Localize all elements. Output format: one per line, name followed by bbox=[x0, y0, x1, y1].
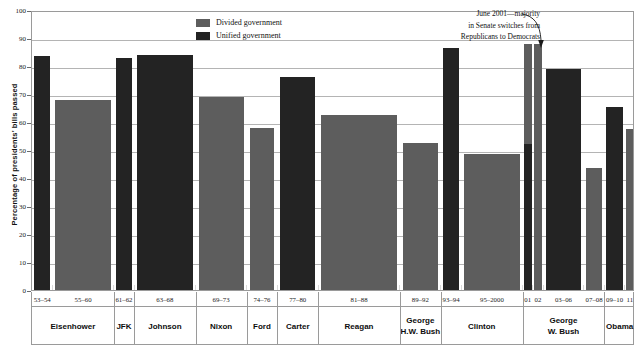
label-separator bbox=[196, 292, 197, 307]
legend-item-unified: Unified government bbox=[196, 30, 282, 41]
year-label-07-08: 07–08 bbox=[584, 292, 604, 307]
y-axis-tick-label: 100 bbox=[0, 7, 26, 15]
bar-69-73[interactable] bbox=[199, 97, 244, 290]
year-label-63-68: 63–68 bbox=[134, 292, 195, 307]
year-label-53-54: 53–54 bbox=[32, 292, 52, 307]
x-axis-tick bbox=[624, 285, 625, 290]
x-axis-tick bbox=[543, 285, 544, 290]
bar-01-divided-segment bbox=[524, 44, 532, 145]
legend-swatch-divided bbox=[196, 19, 210, 27]
legend-label-divided: Divided government bbox=[216, 18, 282, 27]
bar-09-10[interactable] bbox=[606, 107, 622, 290]
year-label-69-73: 69–73 bbox=[196, 292, 247, 307]
x-axis-tick bbox=[277, 285, 278, 290]
year-label-77-80: 77–80 bbox=[277, 292, 318, 307]
year-label-95-2000: 95–2000 bbox=[461, 292, 522, 307]
bar-02[interactable] bbox=[534, 44, 542, 290]
president-label-jfk: JFK bbox=[114, 307, 134, 345]
x-axis-tick bbox=[461, 285, 462, 290]
bar-11[interactable] bbox=[626, 129, 634, 290]
label-separator bbox=[114, 307, 115, 345]
label-separator bbox=[523, 307, 524, 345]
president-label-reagan: Reagan bbox=[318, 307, 400, 345]
x-axis-tick bbox=[532, 285, 533, 290]
label-separator bbox=[247, 292, 248, 307]
year-label-81-88: 81–88 bbox=[318, 292, 400, 307]
year-label-row: 53–5455–6061–6263–6869–7374–7677–8081–88… bbox=[31, 292, 634, 307]
bar-89-92[interactable] bbox=[403, 143, 438, 290]
label-separator bbox=[604, 307, 605, 345]
president-label-clinton: Clinton bbox=[441, 307, 523, 345]
legend-swatch-unified bbox=[196, 32, 210, 40]
y-axis-tick-label: 90 bbox=[0, 35, 26, 43]
y-axis-tick-label: 40 bbox=[0, 175, 26, 183]
x-axis-tick bbox=[318, 285, 319, 290]
president-label-obama: Obama bbox=[604, 307, 635, 345]
bar-61-62[interactable] bbox=[116, 58, 132, 290]
year-label-55-60: 55–60 bbox=[52, 292, 113, 307]
y-axis-tick-label: 50 bbox=[0, 147, 26, 155]
label-separator bbox=[441, 292, 442, 307]
president-label-johnson: Johnson bbox=[134, 307, 195, 345]
annotation-line-1: June 2001—majority bbox=[400, 8, 540, 20]
y-axis-tick-label: 10 bbox=[0, 259, 26, 267]
bar-74-76[interactable] bbox=[250, 128, 275, 290]
label-separator bbox=[134, 307, 135, 345]
legend-label-unified: Unified government bbox=[216, 31, 281, 40]
year-label-61-62: 61–62 bbox=[114, 292, 134, 307]
x-axis-tick bbox=[440, 285, 441, 290]
year-label-89-92: 89–92 bbox=[400, 292, 441, 307]
y-axis-tick-label: 80 bbox=[0, 63, 26, 71]
bar-series bbox=[32, 12, 633, 290]
x-axis-tick bbox=[399, 285, 400, 290]
year-label-01: 01 bbox=[523, 292, 533, 307]
label-separator bbox=[441, 307, 442, 345]
label-separator bbox=[318, 307, 319, 345]
bar-93-94[interactable] bbox=[443, 48, 459, 290]
y-axis-tick-label: 0 bbox=[0, 287, 26, 295]
legend-item-divided: Divided government bbox=[196, 17, 282, 28]
x-axis-tick bbox=[113, 285, 114, 290]
bar-81-88[interactable] bbox=[321, 115, 397, 290]
label-separator bbox=[400, 292, 401, 307]
bar-55-60[interactable] bbox=[55, 100, 110, 290]
x-axis-tick bbox=[195, 285, 196, 290]
annotation-senate-switch: June 2001—majority in Senate switches fr… bbox=[400, 8, 540, 43]
x-axis-tick bbox=[522, 285, 523, 290]
president-label-george-w-bush: GeorgeW. Bush bbox=[523, 307, 605, 345]
plot-area bbox=[31, 11, 634, 291]
label-separator bbox=[134, 292, 135, 307]
bar-77-80[interactable] bbox=[280, 77, 315, 290]
label-separator bbox=[318, 292, 319, 307]
bar-03-06[interactable] bbox=[546, 69, 581, 290]
bar-95-2000[interactable] bbox=[464, 154, 519, 290]
president-label-ford: Ford bbox=[247, 307, 278, 345]
label-separator bbox=[277, 307, 278, 345]
annotation-arrow-icon bbox=[520, 10, 550, 52]
label-separator bbox=[247, 307, 248, 345]
y-axis-tick-label: 60 bbox=[0, 119, 26, 127]
president-label-row: EisenhowerJFKJohnsonNixonFordCarterReaga… bbox=[31, 307, 634, 345]
bar-07-08[interactable] bbox=[586, 168, 602, 290]
annotation-line-2: in Senate switches from bbox=[400, 20, 540, 32]
president-label-george-h-w-bush: GeorgeH.W. Bush bbox=[400, 307, 441, 345]
label-separator bbox=[277, 292, 278, 307]
annotation-line-3: Republicans to Democrats bbox=[400, 31, 540, 43]
year-label-02: 02 bbox=[533, 292, 543, 307]
bar-53-54[interactable] bbox=[34, 56, 50, 290]
president-label-eisenhower: Eisenhower bbox=[32, 307, 114, 345]
president-label-carter: Carter bbox=[277, 307, 318, 345]
label-separator bbox=[604, 292, 605, 307]
year-label-11: 11 bbox=[625, 292, 635, 307]
president-label-nixon: Nixon bbox=[196, 307, 247, 345]
x-axis-tick bbox=[604, 285, 605, 290]
label-separator bbox=[523, 292, 524, 307]
x-axis-tick bbox=[52, 285, 53, 290]
bar-63-68[interactable] bbox=[137, 55, 192, 290]
y-axis-tick-label: 70 bbox=[0, 91, 26, 99]
bar-01[interactable] bbox=[524, 44, 532, 290]
label-separator bbox=[400, 307, 401, 345]
x-axis-tick bbox=[246, 285, 247, 290]
year-label-93-94: 93–94 bbox=[441, 292, 461, 307]
label-separator bbox=[196, 307, 197, 345]
